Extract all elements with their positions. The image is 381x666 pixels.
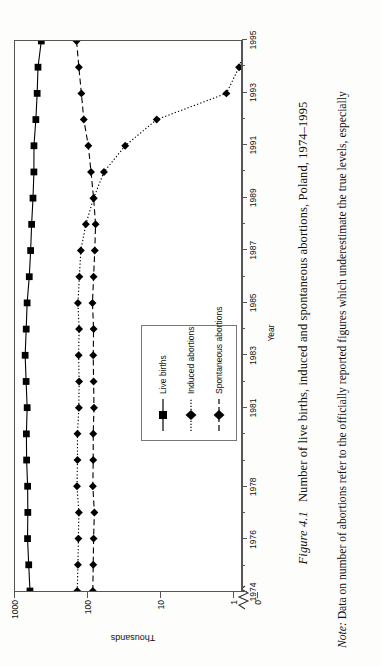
- square-marker: [24, 509, 31, 516]
- x-axis-title: Year: [266, 0, 276, 666]
- diamond-marker: [82, 220, 90, 228]
- figure-number: Figure 4.1: [296, 511, 310, 564]
- diamond-marker: [212, 398, 226, 432]
- x-tick-label: 1983: [248, 346, 258, 365]
- diamond-marker: [75, 404, 83, 412]
- diamond-marker: [75, 351, 83, 359]
- x-tick-label: 1987: [248, 241, 258, 260]
- y-tick-label-100: 100: [83, 600, 93, 640]
- square-marker: [27, 588, 34, 591]
- legend-item-live-births: Live births: [149, 334, 177, 432]
- y-axis-title: Thousands: [111, 633, 156, 643]
- diamond-marker: [89, 351, 97, 359]
- note-text: Data on number of abortions refer to the…: [336, 91, 349, 619]
- diamond-marker: [73, 587, 81, 591]
- y-tick-label-0: 0: [253, 600, 263, 640]
- diamond-marker: [90, 273, 98, 281]
- diamond-marker: [74, 299, 82, 307]
- diamond-marker: [89, 456, 97, 464]
- diamond-marker: [89, 482, 97, 490]
- diamond-marker: [90, 325, 98, 333]
- x-tick-label: 1974: [248, 583, 258, 602]
- y-tick-label-10: 10: [156, 600, 166, 640]
- square-marker: [24, 483, 31, 490]
- square-marker: [24, 404, 31, 411]
- square-marker: [27, 247, 34, 254]
- diamond-marker: [235, 63, 241, 71]
- diamond-marker: [89, 587, 97, 591]
- diamond-marker: [80, 116, 88, 124]
- diamond-marker: [75, 508, 83, 516]
- diamond-marker: [84, 142, 92, 150]
- figure-page: Thousands 1000 100 10 1 0: [0, 0, 381, 666]
- diamond-marker: [73, 482, 81, 490]
- series-line-0: [25, 41, 41, 591]
- diamond-marker: [77, 89, 85, 97]
- x-tick-label: 1991: [248, 136, 258, 155]
- diamond-marker: [74, 535, 82, 543]
- plot-svg: [15, 41, 241, 591]
- square-marker: [31, 142, 38, 149]
- x-tick-label: 1981: [248, 399, 258, 418]
- x-tick-label: 1976: [248, 530, 258, 549]
- diamond-marker: [184, 398, 198, 432]
- figure-caption-text: Number of live births, induced and spont…: [296, 102, 310, 503]
- legend-label: Live births: [158, 355, 168, 394]
- diamond-marker: [77, 247, 85, 255]
- diamond-marker: [74, 561, 82, 569]
- diamond-marker: [74, 430, 82, 438]
- plot-area: Live births Induced abortions: [14, 40, 242, 592]
- diamond-marker: [90, 377, 98, 385]
- diamond-marker: [90, 535, 98, 543]
- diamond-marker: [89, 561, 97, 569]
- y-tick-mark: [160, 592, 161, 598]
- x-tick-label: 1985: [248, 293, 258, 312]
- figure-caption: Figure 4.1Number of live births, induced…: [296, 0, 311, 666]
- square-marker: [24, 535, 31, 542]
- square-marker: [35, 64, 42, 71]
- square-marker: [24, 300, 31, 307]
- square-marker: [23, 430, 30, 437]
- square-marker: [25, 561, 32, 568]
- y-tick-mark: [87, 592, 88, 598]
- x-tick-label: 1989: [248, 188, 258, 207]
- x-tick-label: 1978: [248, 477, 258, 496]
- x-tick-label: 1993: [248, 83, 258, 102]
- diamond-marker: [90, 404, 98, 412]
- diamond-marker: [90, 194, 98, 202]
- square-marker: [32, 116, 39, 123]
- diamond-marker: [91, 247, 99, 255]
- x-axis-baseline: [242, 40, 243, 592]
- square-marker: [34, 90, 41, 97]
- y-tick-mark: [14, 592, 15, 598]
- diamond-marker: [75, 325, 83, 333]
- diamond-marker: [73, 41, 81, 45]
- legend-label: Induced abortions: [186, 326, 196, 394]
- diamond-marker: [90, 508, 98, 516]
- diamond-marker: [75, 377, 83, 385]
- note-label: Note:: [336, 622, 349, 648]
- square-marker: [156, 398, 170, 432]
- diamond-marker: [89, 299, 97, 307]
- x-tick-label: 1995: [248, 31, 258, 50]
- y-tick-mark: [233, 592, 234, 598]
- square-marker: [22, 352, 29, 359]
- series-line-2: [77, 41, 96, 591]
- diamond-marker: [222, 89, 230, 97]
- square-marker: [38, 41, 45, 44]
- diamond-marker: [92, 220, 100, 228]
- square-marker: [23, 326, 30, 333]
- square-marker: [26, 273, 33, 280]
- diamond-marker: [87, 168, 95, 176]
- diamond-marker: [75, 273, 83, 281]
- y-tick-label-1000: 1000: [10, 600, 20, 640]
- diamond-marker: [89, 430, 97, 438]
- diamond-marker: [75, 63, 83, 71]
- chart-container: Thousands 1000 100 10 1 0: [0, 0, 285, 666]
- diamond-marker: [100, 168, 108, 176]
- diamond-marker: [74, 456, 82, 464]
- square-marker: [31, 169, 38, 176]
- legend-box: Live births Induced abortions: [141, 325, 237, 441]
- square-marker: [23, 457, 30, 464]
- square-marker: [23, 378, 30, 385]
